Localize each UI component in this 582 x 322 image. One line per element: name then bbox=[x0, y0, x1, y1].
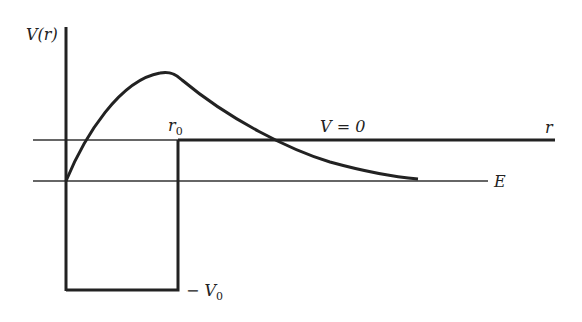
potential-diagram: V(r) r r0 V = 0 E − V0 bbox=[0, 0, 582, 322]
energy-label: E bbox=[493, 172, 506, 191]
x-axis-label: r bbox=[545, 118, 554, 137]
square-well bbox=[66, 140, 178, 290]
zero-line-label: V = 0 bbox=[320, 117, 365, 136]
well-depth-label: − V0 bbox=[186, 281, 223, 303]
y-axis-label: V(r) bbox=[26, 25, 58, 44]
r0-label: r0 bbox=[168, 116, 183, 138]
